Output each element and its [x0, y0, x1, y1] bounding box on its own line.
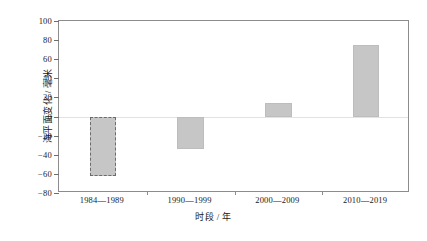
sea-level-change-bar-chart: 海平面变化 / 毫米 100806040200−20−40−60−80 1984…: [0, 0, 427, 241]
bar: [177, 117, 203, 149]
y-axis-tick-label: −80: [38, 189, 52, 198]
x-axis-category-label: 2010—2019: [343, 196, 387, 205]
x-axis-title: 时段 / 年: [0, 213, 427, 222]
plot-area: 100806040200−20−40−60−80: [58, 20, 409, 192]
bar: [265, 103, 291, 116]
x-axis-category-label: 1984—1989: [80, 196, 124, 205]
x-axis-tick: [235, 191, 236, 195]
y-axis-tick-label: 0: [48, 112, 52, 121]
y-axis-tick-label: −40: [38, 151, 52, 160]
y-axis-tick-label: −60: [38, 170, 52, 179]
y-axis-tick: [54, 78, 59, 79]
bar: [90, 117, 116, 176]
y-axis-tick-label: 20: [43, 93, 52, 102]
bar: [353, 45, 379, 117]
y-axis-tick-label: 100: [39, 17, 52, 26]
y-axis-tick: [54, 174, 59, 175]
y-axis-tick-label: 60: [43, 55, 52, 64]
y-axis-tick-label: 80: [43, 36, 52, 45]
y-axis-tick-label: 40: [43, 74, 52, 83]
y-axis-tick: [54, 193, 59, 194]
x-axis-category-label: 2000—2009: [255, 196, 299, 205]
y-axis-tick-label: −20: [38, 131, 52, 140]
y-axis-tick: [54, 97, 59, 98]
y-axis-tick: [54, 155, 59, 156]
y-axis-tick: [54, 59, 59, 60]
x-axis-tick: [322, 191, 323, 195]
y-axis-tick: [54, 21, 59, 22]
y-axis-tick: [54, 117, 59, 118]
y-axis-tick: [54, 40, 59, 41]
x-axis-category-label: 1990—1999: [167, 196, 211, 205]
x-axis-tick: [147, 191, 148, 195]
y-axis-tick: [54, 136, 59, 137]
